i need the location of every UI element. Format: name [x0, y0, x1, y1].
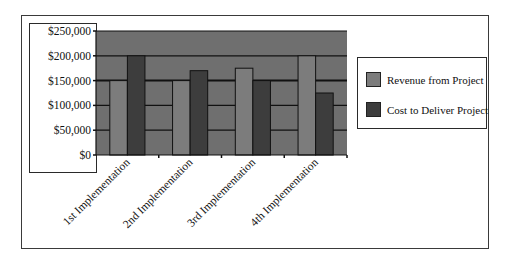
- legend-label-cost: Cost to Deliver Project: [387, 104, 488, 116]
- plot-area: [96, 31, 347, 155]
- y-tick-label: $150,000: [48, 75, 91, 88]
- bar-revenue-3: [235, 68, 253, 155]
- y-tick-label: $100,000: [48, 99, 91, 112]
- x-tick-label: 4th Implementation: [248, 156, 321, 229]
- bar-cost-3: [253, 81, 271, 155]
- y-axis: $0$50,000$100,000$150,000$200,000$250,00…: [48, 25, 96, 161]
- legend-swatch-cost: [366, 102, 381, 117]
- legend: Revenue from Project Cost to Deliver Pro…: [357, 57, 487, 129]
- x-tick-label: 1st Implementation: [60, 156, 132, 228]
- y-tick-label: $250,000: [48, 25, 91, 38]
- y-tick-label: $50,000: [54, 124, 92, 137]
- legend-label-revenue: Revenue from Project: [387, 74, 484, 86]
- legend-item-revenue: Revenue from Project: [366, 72, 484, 87]
- bar-revenue-4: [298, 56, 316, 155]
- legend-item-cost: Cost to Deliver Project: [366, 102, 488, 117]
- x-axis: 1st Implementation2nd Implementation3rd …: [60, 155, 347, 231]
- legend-swatch-revenue: [366, 72, 381, 87]
- x-tick-label: 3rd Implementation: [185, 156, 259, 230]
- bar-cost-1: [127, 56, 145, 155]
- bar-revenue-1: [110, 81, 128, 155]
- y-tick-label: $0: [80, 149, 92, 161]
- bar-cost-2: [190, 71, 208, 155]
- y-tick-label: $200,000: [48, 50, 91, 63]
- bar-revenue-2: [173, 81, 191, 155]
- bar-cost-4: [316, 93, 334, 155]
- bar-chart: $0$50,000$100,000$150,000$200,000$250,00…: [0, 0, 509, 266]
